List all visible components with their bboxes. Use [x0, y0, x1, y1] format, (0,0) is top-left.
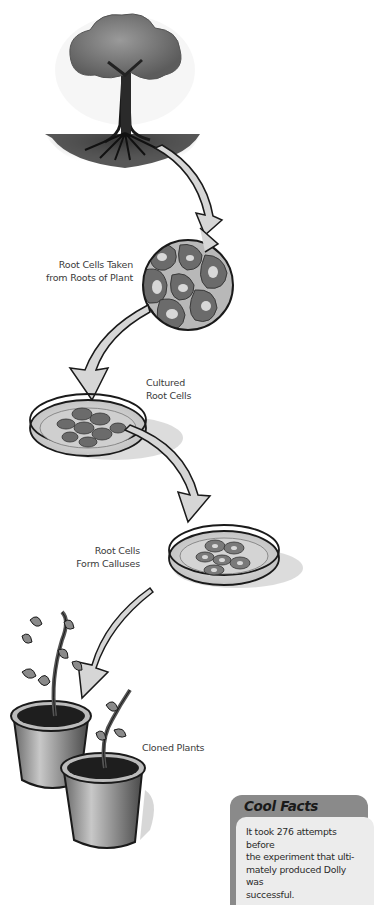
label-line: Root Cells: [60, 544, 140, 557]
arrow-2: [70, 305, 150, 400]
label-line: Root Cells: [146, 389, 246, 402]
tree-illustration: [45, 14, 200, 172]
cool-facts-body: It took 276 attempts before the experime…: [236, 817, 374, 905]
label-line: from Roots of Plant: [40, 271, 133, 284]
cool-facts-title: Cool Facts: [244, 798, 318, 814]
label-line: Form Calluses: [60, 557, 140, 570]
label-line: Root Cells Taken: [40, 258, 133, 271]
label-cultured-root-cells: Cultured Root Cells: [146, 376, 246, 402]
label-root-cells-taken: Root Cells Taken from Roots of Plant: [40, 258, 133, 284]
label-root-cells-form-calluses: Root Cells Form Calluses: [60, 544, 140, 570]
label-cloned-plants: Cloned Plants: [142, 741, 242, 754]
cool-facts-text: It took 276 attempts before the experime…: [246, 826, 364, 902]
label-line: Cultured: [146, 376, 246, 389]
facts-line: successful.: [246, 889, 364, 902]
facts-line: the experiment that ulti-: [246, 851, 364, 864]
cool-facts-box: Cool Facts It took 276 attempts before t…: [230, 795, 368, 905]
arrow-4: [78, 588, 153, 698]
cloned-plants-illustration: [11, 612, 154, 848]
facts-line: mately produced Dolly was: [246, 864, 364, 889]
petri-dish-calluses: [169, 525, 303, 588]
label-line: Cloned Plants: [142, 741, 242, 754]
facts-line: It took 276 attempts before: [246, 826, 364, 851]
root-cell-magnified-circle: [140, 228, 233, 330]
